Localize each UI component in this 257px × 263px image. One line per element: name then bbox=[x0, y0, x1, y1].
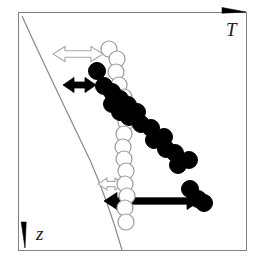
axis-arrow-depth bbox=[21, 222, 26, 248]
upper-filled-double-arrow bbox=[63, 78, 96, 93]
filled-circle-node bbox=[89, 63, 106, 80]
figure-canvas: T z bbox=[0, 0, 257, 263]
axis-arrow-temperature bbox=[222, 8, 246, 14]
axis-label-temperature: T bbox=[226, 20, 237, 39]
filled-circle-node bbox=[196, 195, 213, 212]
open-circle-node bbox=[118, 214, 134, 230]
filled-circle-node bbox=[181, 152, 198, 169]
plot-frame bbox=[19, 13, 247, 251]
upper-open-double-arrow bbox=[53, 47, 103, 62]
axis-label-depth: z bbox=[36, 224, 43, 243]
